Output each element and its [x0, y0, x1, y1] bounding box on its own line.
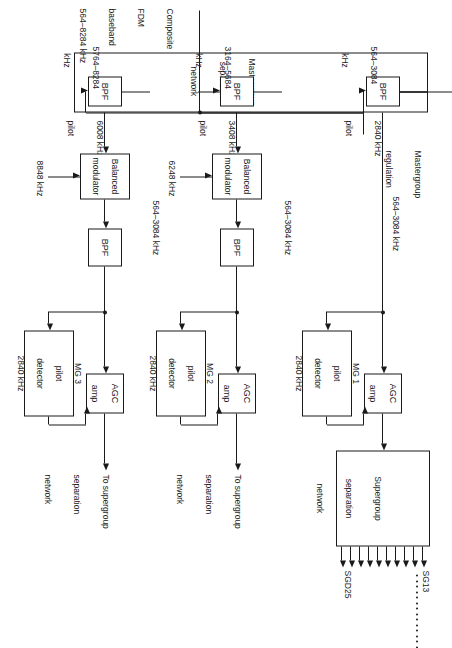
bpf-chain-2-label: BPF — [232, 238, 242, 256]
pd2-control-up — [181, 424, 218, 425]
agc-amp-3[interactable]: AGC amp — [86, 373, 124, 413]
agc-amp-2[interactable]: AGC amp — [218, 373, 256, 413]
bm2-line2: modulator — [223, 157, 233, 195]
bm2-line1: Balanced — [242, 157, 252, 195]
pd1-control-in — [363, 413, 364, 424]
mg2-output-arrow — [235, 463, 241, 470]
mg3-out-line1: To supergroup — [101, 474, 111, 566]
agc-amp-1-line2: amp — [368, 383, 378, 403]
bpf-chain-2[interactable]: BPF — [220, 228, 254, 266]
agc3-control-arrow — [84, 406, 90, 413]
mg2-carrier-arrow — [205, 172, 212, 178]
pilot-detector-3-label: MG 3 pilot detector 2840 kHz — [16, 355, 83, 391]
mg3-mod-input-arrow — [103, 146, 109, 153]
balanced-modulator-2-label: Balanced modulator — [223, 157, 252, 195]
mg2-agc-input-arrow — [235, 366, 241, 373]
agc-amp-3-label: AGC amp — [90, 383, 120, 403]
agc2-control-arrow — [216, 406, 222, 413]
pd3-line1: MG 3 — [73, 355, 83, 391]
agc-amp-3-line1: AGC — [110, 383, 120, 403]
mg1-tap-run — [326, 311, 327, 323]
supergroup-ellipsis — [414, 574, 420, 648]
pilot-detector-1[interactable]: MG 1 pilot detector 2840 kHz — [302, 330, 352, 416]
pd1-input-arrow — [325, 323, 331, 330]
mg3-trunk-band: 564–3084 kHz — [150, 200, 160, 290]
bpf-chain-3[interactable]: BPF — [88, 228, 122, 266]
mg2-bpf-input-arrow — [235, 221, 241, 228]
pd1-control-up — [327, 424, 364, 425]
mg3-tap-run — [48, 311, 49, 323]
supergroup-output-arrows — [340, 546, 426, 572]
pd2-line2: pilot — [186, 355, 196, 391]
pd2-control-in — [217, 413, 218, 424]
mg-reg-line1: Mastergroup — [413, 150, 423, 222]
mg1-trunk-band: 564–3084 kHz — [390, 196, 400, 286]
pd1-line1: MG 1 — [351, 355, 361, 391]
pilot-detector-1-label: MG 1 pilot detector 2840 kHz — [294, 355, 361, 391]
pilot-detector-3[interactable]: MG 3 pilot detector 2840 kHz — [24, 330, 74, 416]
mg3-out-line2: separation — [71, 474, 81, 566]
pd1-line4: 2840 kHz — [294, 355, 304, 391]
agc-amp-1-label: AGC amp — [368, 383, 398, 403]
agc-amp-1-line1: AGC — [388, 383, 398, 403]
agc-amp-1[interactable]: AGC amp — [364, 373, 402, 413]
mg2-carrier-label: 6248 kHz — [166, 150, 176, 206]
mg3-out-line3: network — [42, 474, 52, 566]
pd3-line2: pilot — [54, 355, 64, 391]
mg2-trunk — [236, 266, 237, 312]
mg3-trunk-2 — [104, 312, 105, 366]
agc-amp-3-line2: amp — [90, 383, 100, 403]
balanced-modulator-3[interactable]: Balanced modulator — [80, 153, 130, 199]
sgsn-line2: separation — [343, 452, 353, 544]
pd1-line2: pilot — [332, 355, 342, 391]
balanced-modulator-2[interactable]: Balanced modulator — [212, 153, 262, 199]
mg1-agc-input-arrow — [381, 366, 387, 373]
pd2-line4: 2840 kHz — [148, 355, 158, 391]
bm3-line2: modulator — [91, 157, 101, 195]
agc-amp-2-line1: AGC — [242, 383, 252, 403]
mg3-carrier-label: 8848 kHz — [34, 150, 44, 206]
mg2-in-run — [236, 112, 237, 146]
mg3-bpf-input-arrow — [103, 221, 109, 228]
supergroup-first-label: SG13 — [420, 570, 430, 610]
mg3-carrier-arrow — [73, 172, 80, 178]
mg2-agc-out — [236, 413, 237, 463]
bpf-chain-3-label: BPF — [100, 238, 110, 256]
agc1-control-arrow — [362, 406, 368, 413]
mg3-tap-drop — [49, 311, 105, 312]
mg2-out-line2: separation — [203, 474, 213, 566]
mg1-trunk — [382, 112, 383, 312]
mg2-tap-drop — [181, 311, 237, 312]
mg3-in-run — [104, 112, 105, 146]
pilot-detector-2[interactable]: MG 2 pilot detector 2840 kHz — [156, 330, 206, 416]
agc-amp-2-label: AGC amp — [222, 383, 252, 403]
mg2-mod-input-arrow — [235, 146, 241, 153]
mg3-agc-out — [104, 413, 105, 463]
pd3-control-up — [49, 424, 86, 425]
mg2-output-label: To supergroup separation network — [155, 474, 262, 566]
pd2-line3: detector — [167, 355, 177, 391]
pd3-line3: detector — [35, 355, 45, 391]
pd2-line1: MG 2 — [205, 355, 215, 391]
mg1-tap-drop — [327, 311, 383, 312]
pd3-input-arrow — [47, 323, 53, 330]
mg1-agc-out — [382, 413, 383, 443]
pd1-line3: detector — [313, 355, 323, 391]
pd2-control-out — [180, 416, 181, 424]
supergroup-last-label: SGD25 — [342, 570, 352, 614]
mg3-mod-out — [104, 199, 105, 221]
mg2-out-line1: To supergroup — [233, 474, 243, 566]
pilot-detector-2-label: MG 2 pilot detector 2840 kHz — [148, 355, 215, 391]
sgsn-line1: Supergroup — [373, 452, 383, 544]
sgsn-input-arrow — [381, 443, 387, 450]
balanced-modulator-3-label: Balanced modulator — [91, 157, 120, 195]
mg2-tap-run — [180, 311, 181, 323]
mg2-trunk-2 — [236, 312, 237, 366]
mg3-output-label: To supergroup separation network — [23, 474, 130, 566]
sgsn-line3: network — [314, 452, 324, 544]
pd3-control-in — [85, 413, 86, 424]
agc-amp-2-line2: amp — [222, 383, 232, 403]
pd2-input-arrow — [179, 323, 185, 330]
